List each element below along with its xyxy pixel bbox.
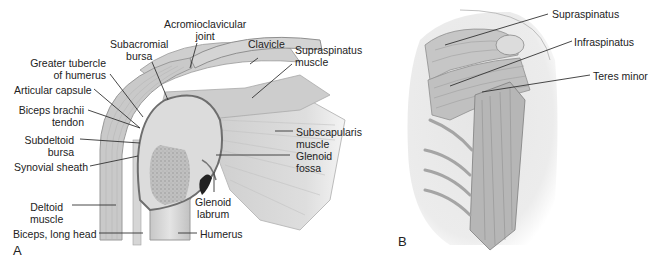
panel-letter-a: A — [13, 243, 22, 258]
label-subacromial-bursa: Subacromial bursa — [110, 38, 168, 62]
label-biceps-long-head: Biceps, long head — [13, 228, 96, 240]
label-humerus: Humerus — [200, 228, 243, 240]
label-supraspinatus-muscle: Supraspinatus muscle — [295, 44, 362, 68]
label-deltoid-muscle: Deltoid muscle — [30, 201, 63, 225]
label-synovial-sheath: Synovial sheath — [14, 161, 88, 173]
label-acromioclavicular-joint: Acromioclavicular joint — [164, 18, 246, 42]
label-greater-tubercle: Greater tubercle of humerus — [30, 57, 106, 81]
label-subdeltoid-bursa: Subdeltoid bursa — [10, 134, 74, 158]
label-teres-minor: Teres minor — [593, 70, 648, 82]
label-infraspinatus: Infraspinatus — [574, 36, 634, 48]
panel-letter-b: B — [398, 234, 407, 249]
label-articular-capsule: Articular capsule — [14, 84, 92, 96]
label-subscapularis-muscle: Subscapularis muscle — [296, 126, 362, 150]
label-glenoid-fossa: Glenoid fossa — [296, 150, 332, 174]
panel-b-rotator-cuff-posterior: Supraspinatus Infraspinatus Teres minor … — [390, 0, 650, 264]
label-supraspinatus: Supraspinatus — [552, 8, 619, 20]
label-clavicle: Clavicle — [248, 38, 285, 50]
panel-a-shoulder-joint-coronal: Acromioclavicular joint Subacromial burs… — [0, 0, 400, 264]
label-biceps-brachii-tendon: Biceps brachii tendon — [10, 104, 84, 128]
label-glenoid-labrum: Glenoid labrum — [195, 196, 231, 220]
